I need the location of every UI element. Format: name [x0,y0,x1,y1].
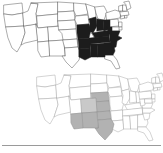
state2-MN [107,75,121,88]
state2-AL [130,115,138,129]
state2-NM-highlight [82,112,98,128]
state2-MA [153,83,162,88]
state2-MI [128,78,140,92]
state2-SD [91,83,108,93]
bottom-map-states [37,73,163,141]
state2-IA [108,87,122,97]
state2-WV [140,99,145,106]
state2-VT [152,77,156,83]
state2-OR [37,85,57,99]
bottom-map-panel [0,0,163,153]
bottom-map-svg [0,0,163,153]
state2-DE [152,99,155,102]
state2-AR [111,110,123,121]
state2-MS [123,116,131,129]
state2-ND [91,74,107,84]
footer-rule [2,145,161,146]
state2-NY [139,82,154,92]
state2-WA [37,75,56,87]
state2-WY [70,86,91,100]
state2-PA [139,91,152,99]
state2-NC [143,108,155,113]
state2-ID [56,75,71,98]
state2-MO [110,96,124,111]
state2-NJ [152,94,155,99]
state2-FL [138,127,153,141]
state2-OK-highlight [96,111,111,120]
state2-AZ-highlight [71,113,83,129]
state2-MD [145,99,152,103]
choropleth-figure [0,0,163,153]
state2-LA [112,120,124,132]
state2-IL [122,89,130,105]
state2-CA [39,98,58,124]
state2-CO-highlight [81,98,97,113]
